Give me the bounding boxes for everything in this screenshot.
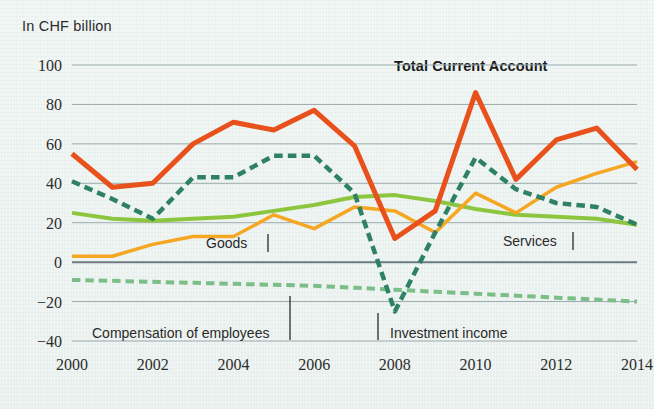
- y-tick-label: 20: [46, 215, 62, 232]
- y-tick-label: 40: [46, 175, 62, 192]
- annotation-label-investment: Investment income: [390, 325, 508, 341]
- y-tick-label: 80: [46, 96, 62, 113]
- y-tick-label: −20: [37, 294, 62, 311]
- annotation-label-compensation: Compensation of employees: [92, 325, 269, 341]
- chart-page: In CHF billion Total Current Account 100…: [0, 0, 654, 409]
- x-tick-label: 2008: [379, 356, 411, 373]
- series-line-compensation-of-employees: [72, 280, 637, 302]
- x-tick-label: 2004: [217, 356, 249, 373]
- line-chart: 100806040200−20−40 200020022004200620082…: [0, 0, 654, 409]
- series-layer: [72, 93, 637, 312]
- y-tick-label: 60: [46, 136, 62, 153]
- y-axis-labels: 100806040200−20−40: [37, 57, 62, 350]
- x-tick-label: 2012: [540, 356, 572, 373]
- x-tick-label: 2000: [56, 356, 88, 373]
- y-tick-label: 0: [54, 254, 62, 271]
- annotation-label-services: Services: [503, 233, 557, 249]
- x-tick-label: 2002: [137, 356, 169, 373]
- x-tick-label: 2010: [460, 356, 492, 373]
- x-tick-label: 2006: [298, 356, 330, 373]
- annotation-label-goods: Goods: [206, 235, 247, 251]
- y-tick-label: −40: [37, 333, 62, 350]
- y-tick-label: 100: [38, 57, 62, 74]
- x-axis-labels: 20002002200420062008201020122014: [56, 356, 653, 373]
- x-tick-label: 2014: [621, 356, 653, 373]
